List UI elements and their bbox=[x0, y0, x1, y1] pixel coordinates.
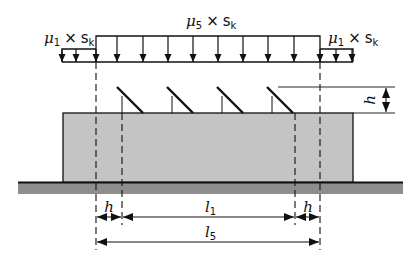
load-arrow-head bbox=[215, 54, 222, 62]
load-arrow-head bbox=[59, 54, 66, 62]
load-arrow-head bbox=[265, 54, 272, 62]
load-arrow-head bbox=[73, 54, 80, 62]
snow-load-diagram: μ1×sk μ5×sk μ1×sk h h h l1 l5 bbox=[0, 0, 416, 265]
panel-surface bbox=[267, 87, 293, 113]
solar-panels bbox=[117, 87, 293, 113]
panel-surface bbox=[117, 87, 143, 113]
inner-length-label: l1 bbox=[205, 198, 216, 217]
total-length-label: l5 bbox=[205, 223, 216, 242]
middle-load-label: μ5×sk bbox=[186, 12, 237, 31]
middle-load-block bbox=[96, 36, 320, 62]
bottom-dimensions: h h l1 l5 bbox=[97, 198, 319, 242]
solar-panel bbox=[117, 87, 143, 113]
load-arrow-head bbox=[333, 54, 340, 62]
load-arrow-head bbox=[93, 54, 100, 62]
panel-height-label: h bbox=[361, 95, 379, 105]
left-load-label: μ1×sk bbox=[44, 29, 95, 48]
load-arrow-head bbox=[165, 54, 172, 62]
load-arrow-head bbox=[291, 54, 298, 62]
edge-left-label: h bbox=[104, 198, 114, 216]
edge-right-label: h bbox=[303, 198, 313, 216]
ground-strip bbox=[18, 183, 403, 194]
panel-surface bbox=[217, 87, 243, 113]
load-arrow-head bbox=[240, 54, 247, 62]
load-arrow-head bbox=[349, 54, 356, 62]
panel-height-dimension: h bbox=[278, 87, 395, 113]
load-arrow-head bbox=[114, 54, 121, 62]
load-diagram bbox=[59, 36, 356, 62]
right-load-label: μ1×sk bbox=[328, 29, 379, 48]
load-arrow-head bbox=[140, 54, 147, 62]
load-arrow-head bbox=[190, 54, 197, 62]
left-load-block bbox=[62, 49, 96, 62]
load-arrows bbox=[59, 36, 356, 62]
solar-panel bbox=[167, 87, 193, 113]
solar-panel bbox=[267, 87, 293, 113]
load-arrow-head bbox=[317, 54, 324, 62]
building bbox=[63, 113, 353, 182]
panel-surface bbox=[167, 87, 193, 113]
solar-panel bbox=[217, 87, 243, 113]
